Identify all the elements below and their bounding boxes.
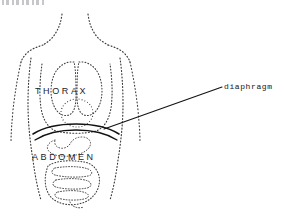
intestines-coil-1	[52, 167, 92, 177]
left-shoulder-outline	[21, 45, 43, 62]
left-arm-outer-outline	[11, 62, 21, 142]
neck-left-outline	[43, 14, 62, 45]
region-label-abdomen: ABDOMEN	[32, 152, 96, 162]
right-arm-outer-outline	[130, 62, 140, 142]
neck-right-outline	[88, 14, 108, 45]
intestines-coil-2	[53, 179, 91, 189]
torso-left-outline	[28, 58, 41, 200]
torso-illustration	[0, 0, 285, 216]
right-shoulder-outline	[108, 45, 130, 62]
callout-label-diaphragm: diaphragm	[224, 82, 273, 91]
anatomy-diagram-figure: THORAX ABDOMEN diaphragm	[0, 0, 285, 216]
diaphragm-leader-line	[104, 87, 222, 129]
diaphragm-upper-line	[33, 124, 119, 134]
intestines-coil-3	[55, 191, 88, 200]
intestines-tail	[70, 202, 84, 208]
region-label-thorax: THORAX	[35, 86, 88, 96]
